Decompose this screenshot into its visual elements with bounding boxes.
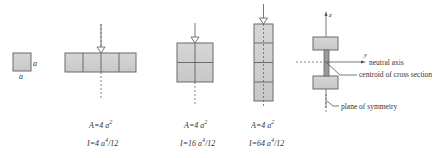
area-label: A=4 a2 [183, 119, 207, 130]
z-arrow-icon [325, 11, 328, 16]
ibeam-section: z y neutral axis centroid of cross secti… [296, 11, 432, 112]
neutral-axis-label: neutral axis [369, 58, 404, 67]
side-label-bottom: a [19, 72, 23, 81]
inertia-label: I=16 a4/12 [179, 137, 215, 148]
beam-cross-section-diagram: a a A=4 a2 I=4 a4/12 A=4 a2 I=16 a4/12 A… [0, 0, 447, 158]
unit-square: a a [13, 53, 37, 81]
load-arrow-icon [97, 47, 105, 53]
z-axis-label: z [328, 11, 332, 19]
bottom-flange [313, 76, 338, 89]
y-arrow-icon [361, 61, 366, 64]
side-label-right: a [33, 59, 37, 68]
symmetry-leader [327, 101, 339, 106]
area-label: A=4 a2 [88, 119, 112, 130]
web [324, 50, 329, 76]
inertia-label: I=64 a4/12 [248, 137, 284, 148]
section-tall: A=4 a2 I=64 a4/12 [248, 4, 284, 148]
section-square: A=4 a2 I=16 a4/12 [177, 23, 215, 148]
centroid-label: centroid of cross section [359, 70, 432, 79]
centroid-leader [327, 63, 357, 75]
load-arrow-icon [191, 37, 199, 43]
inertia-label: I=4 a4/12 [86, 137, 118, 148]
y-axis-label: y [363, 51, 368, 59]
top-flange [313, 37, 338, 50]
load-arrow-icon [260, 18, 268, 24]
area-label: A=4 a2 [250, 119, 274, 130]
section-flat: A=4 a2 I=4 a4/12 [65, 24, 136, 148]
symmetry-label: plane of symmetry [341, 102, 397, 111]
